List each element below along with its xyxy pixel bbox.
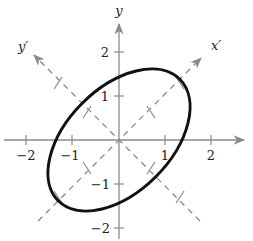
y-axis-label: y <box>114 3 123 18</box>
y-tick-label: −1 <box>91 177 110 192</box>
x-tick-label: 2 <box>207 148 215 163</box>
y-prime-axis-label: y′ <box>17 39 28 54</box>
x-tick-label: −2 <box>16 148 35 163</box>
x-prime-axis-label: x′ <box>211 38 221 53</box>
y-tick-label: 1 <box>101 89 109 104</box>
y-tick-label: −2 <box>91 221 110 236</box>
y-prime-axis: y′ <box>17 39 200 221</box>
y-tick-label: 2 <box>101 45 109 60</box>
diagram-canvas: −2 −1 1 2 2 1 −1 −2 y x′ <box>0 0 253 241</box>
ellipse-diagram: −2 −1 1 2 2 1 −1 −2 y x′ <box>0 0 253 241</box>
x-prime-axis: x′ <box>38 38 221 221</box>
x-tick-label: −1 <box>60 148 79 163</box>
x-axis: −2 −1 1 2 <box>4 135 244 163</box>
